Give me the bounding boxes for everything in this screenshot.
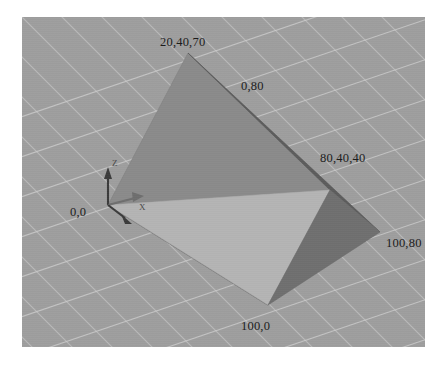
screenshot-root: Z X 20,40,70 0,80 80,40,40 100,80 100,0 …: [0, 0, 445, 365]
vertex-label-origin: 0,0: [70, 206, 86, 219]
viewport-3d[interactable]: Z X: [22, 17, 425, 347]
z-axis-letter: Z: [112, 159, 118, 168]
scene-canvas[interactable]: [22, 17, 425, 347]
vertex-label-bottom: 100,0: [241, 320, 270, 333]
x-axis-letter: X: [139, 203, 146, 212]
vertex-label-back-top: 0,80: [241, 80, 264, 93]
vertex-label-mid-right: 80,40,40: [320, 152, 365, 165]
vertex-label-far-right: 100,80: [386, 237, 422, 250]
vertex-label-apex: 20,40,70: [160, 36, 205, 49]
